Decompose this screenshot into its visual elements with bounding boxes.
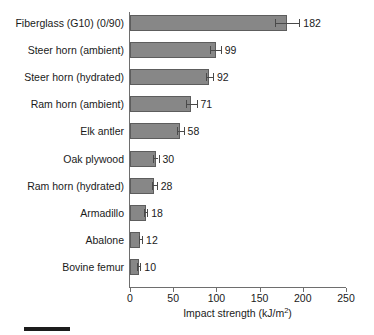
error-bar-cap bbox=[157, 182, 158, 190]
error-bar-cap bbox=[153, 155, 154, 163]
x-axis-title-text: Impact strength (kJ/m bbox=[183, 307, 284, 319]
error-bar-cap bbox=[144, 209, 145, 217]
error-bar-cap bbox=[197, 100, 198, 108]
error-bar-cap bbox=[139, 236, 140, 244]
bar-value-label: 99 bbox=[225, 42, 237, 58]
bar-row: Steer horn (ambient)99 bbox=[0, 42, 374, 58]
bar-row: Oak plywood30 bbox=[0, 151, 374, 167]
x-axis-line bbox=[129, 287, 346, 288]
bar-value-label: 92 bbox=[217, 69, 229, 85]
bar bbox=[130, 123, 180, 139]
x-tick-label: 100 bbox=[196, 292, 236, 304]
error-bar-cap bbox=[147, 209, 148, 217]
bar-row: Bovine femur10 bbox=[0, 259, 374, 275]
bar-value-label: 30 bbox=[163, 151, 175, 167]
bar-row: Ram horn (hydrated)28 bbox=[0, 178, 374, 194]
category-label: Bovine femur bbox=[0, 259, 124, 275]
error-bar-cap bbox=[213, 73, 214, 81]
category-label: Abalone bbox=[0, 232, 124, 248]
category-label: Ram horn (hydrated) bbox=[0, 178, 124, 194]
error-bar-cap bbox=[210, 46, 211, 54]
bar-row: Armadillo18 bbox=[0, 205, 374, 221]
bar bbox=[130, 42, 216, 58]
bar-value-label: 28 bbox=[161, 178, 173, 194]
bar-row: Steer horn (hydrated)92 bbox=[0, 69, 374, 85]
bar-value-label: 18 bbox=[151, 205, 163, 221]
x-tick-label: 0 bbox=[110, 292, 150, 304]
error-bar bbox=[177, 131, 184, 132]
bar-value-label: 182 bbox=[303, 15, 321, 31]
error-bar bbox=[186, 104, 196, 105]
bar-value-label: 12 bbox=[146, 232, 158, 248]
bar-row: Ram horn (ambient)71 bbox=[0, 96, 374, 112]
bar-row: Fiberglass (G10) (0/90)182 bbox=[0, 15, 374, 31]
error-bar-cap bbox=[152, 182, 153, 190]
error-bar bbox=[206, 77, 213, 78]
plot-area: Fiberglass (G10) (0/90)182Steer horn (am… bbox=[0, 0, 374, 335]
error-bar-cap bbox=[275, 19, 276, 27]
bar bbox=[130, 178, 154, 194]
impact-strength-bar-chart: Fiberglass (G10) (0/90)182Steer horn (am… bbox=[0, 0, 374, 335]
error-bar bbox=[210, 50, 220, 51]
error-bar-cap bbox=[159, 155, 160, 163]
x-tick-label: 150 bbox=[240, 292, 280, 304]
bar bbox=[130, 96, 191, 112]
error-bar bbox=[275, 23, 299, 24]
category-label: Ram horn (ambient) bbox=[0, 96, 124, 112]
error-bar-cap bbox=[299, 19, 300, 27]
error-bar-cap bbox=[177, 127, 178, 135]
category-label: Oak plywood bbox=[0, 151, 124, 167]
error-bar-cap bbox=[142, 236, 143, 244]
error-bar-cap bbox=[137, 263, 138, 271]
error-bar-cap bbox=[221, 46, 222, 54]
x-axis-title: Impact strength (kJ/m2) bbox=[129, 307, 346, 320]
bar bbox=[130, 69, 209, 85]
bar-value-label: 71 bbox=[201, 96, 213, 112]
category-label: Steer horn (ambient) bbox=[0, 42, 124, 58]
bar-value-label: 58 bbox=[188, 123, 200, 139]
bar-value-label: 10 bbox=[144, 259, 156, 275]
bar-row: Elk antler58 bbox=[0, 123, 374, 139]
error-bar-cap bbox=[206, 73, 207, 81]
error-bar-cap bbox=[184, 127, 185, 135]
figure-scale-bar bbox=[24, 327, 70, 331]
x-tick-label: 50 bbox=[153, 292, 193, 304]
category-label: Armadillo bbox=[0, 205, 124, 221]
error-bar-cap bbox=[186, 100, 187, 108]
category-label: Fiberglass (G10) (0/90) bbox=[0, 15, 124, 31]
x-tick-label: 250 bbox=[326, 292, 366, 304]
error-bar-cap bbox=[140, 263, 141, 271]
bar-row: Abalone12 bbox=[0, 232, 374, 248]
x-axis-title-suffix: ) bbox=[288, 307, 292, 319]
category-label: Elk antler bbox=[0, 123, 124, 139]
bar bbox=[130, 151, 156, 167]
bar bbox=[130, 15, 287, 31]
x-tick-label: 200 bbox=[283, 292, 323, 304]
category-label: Steer horn (hydrated) bbox=[0, 69, 124, 85]
